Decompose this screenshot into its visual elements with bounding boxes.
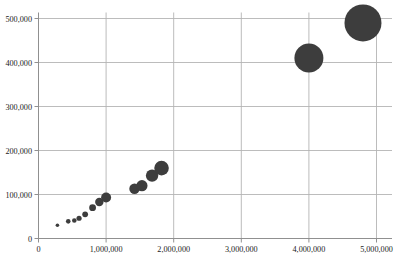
data-point: [76, 216, 81, 221]
y-tick-label: 400,000: [5, 59, 32, 68]
y-tick-label: 0: [28, 235, 32, 244]
y-tick-label: 500,000: [5, 15, 32, 24]
y-tick-label: 200,000: [5, 147, 32, 156]
chart-svg: 0100,000200,000300,000400,000500,000 01,…: [0, 0, 402, 266]
data-point: [89, 204, 96, 211]
data-point: [344, 4, 381, 41]
x-axis-tick-labels: 01,000,0002,000,0003,000,0004,000,0005,0…: [36, 245, 392, 254]
y-tick-label: 100,000: [5, 191, 32, 200]
data-point: [154, 161, 169, 176]
tick-marks: [35, 19, 377, 243]
data-points: [56, 4, 382, 227]
bubble-chart: 0100,000200,000300,000400,000500,000 01,…: [0, 0, 402, 266]
x-tick-label: 1,000,000: [90, 245, 123, 254]
data-point: [72, 218, 77, 223]
x-tick-label: 3,000,000: [225, 245, 258, 254]
x-tick-label: 5,000,000: [360, 245, 393, 254]
y-axis-tick-labels: 0100,000200,000300,000400,000500,000: [5, 15, 32, 244]
x-tick-label: 0: [36, 245, 40, 254]
x-tick-label: 2,000,000: [157, 245, 190, 254]
data-point: [136, 180, 147, 191]
data-point: [294, 44, 323, 73]
data-point: [66, 219, 71, 224]
data-point: [101, 193, 111, 203]
x-tick-label: 4,000,000: [293, 245, 326, 254]
data-point: [82, 211, 88, 217]
y-tick-label: 300,000: [5, 103, 32, 112]
data-point: [56, 224, 60, 228]
